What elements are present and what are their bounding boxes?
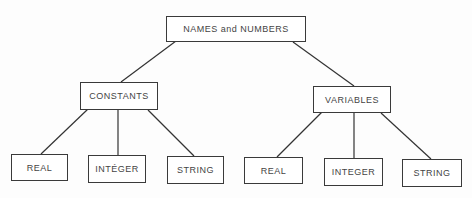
edge-variables-real xyxy=(277,112,322,157)
variables-node: VARIABLES xyxy=(313,86,391,113)
constants-integer-node: INTÉGER xyxy=(88,155,146,183)
tree-diagram: NAMES and NUMBERS CONSTANTS VARIABLES RE… xyxy=(0,0,472,198)
edge-variables-string xyxy=(381,113,431,159)
constants-real-node: REAL xyxy=(11,154,68,181)
edge-root-variables xyxy=(293,42,354,86)
edge-constants-string xyxy=(148,110,194,156)
edge-constants-real xyxy=(41,109,88,154)
constants-node: CONSTANTS xyxy=(80,82,158,110)
variables-string-node: STRING xyxy=(402,159,462,187)
variables-real-node: REAL xyxy=(244,157,303,184)
root-node: NAMES and NUMBERS xyxy=(166,16,306,42)
edge-root-constants xyxy=(121,41,176,82)
constants-string-node: STRING xyxy=(167,156,224,184)
variables-integer-node: INTEGER xyxy=(324,158,383,186)
